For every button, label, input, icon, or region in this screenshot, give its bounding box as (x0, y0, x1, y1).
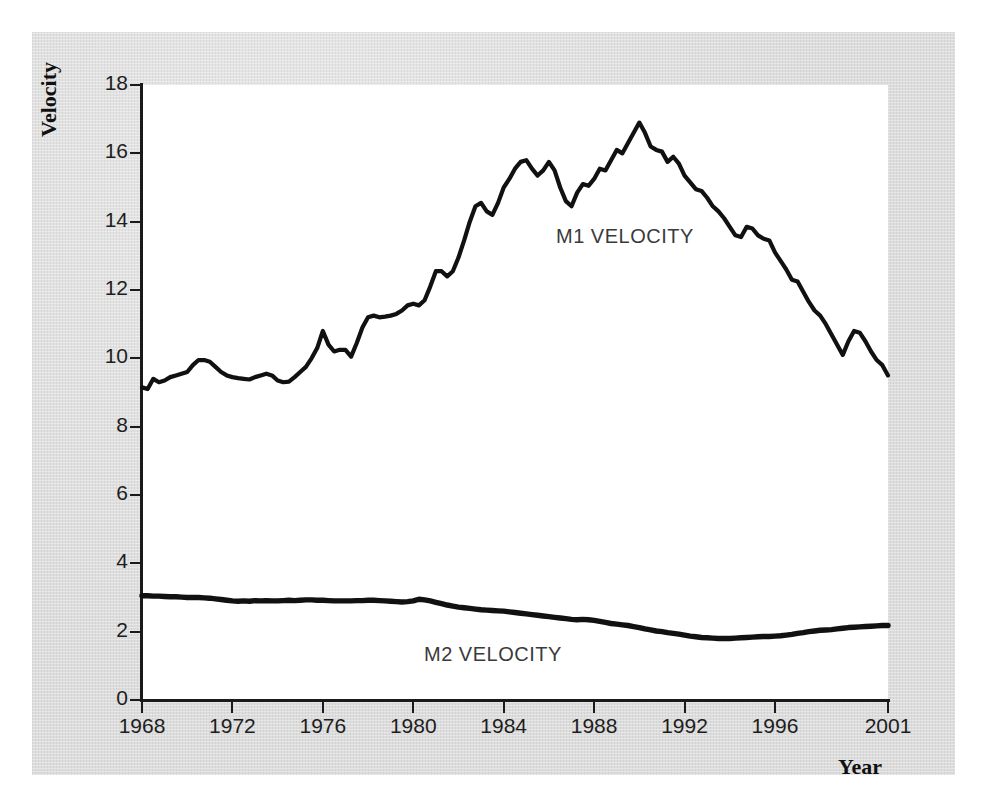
annotation-m1-velocity: M1 VELOCITY (556, 225, 694, 248)
series-line-m1 (142, 123, 888, 390)
series-layer (0, 0, 985, 810)
series-line-m2 (142, 596, 888, 639)
figure-canvas: Velocity Year 024681012141618 1968197219… (0, 0, 985, 810)
annotation-m2-velocity: M2 VELOCITY (424, 643, 562, 666)
